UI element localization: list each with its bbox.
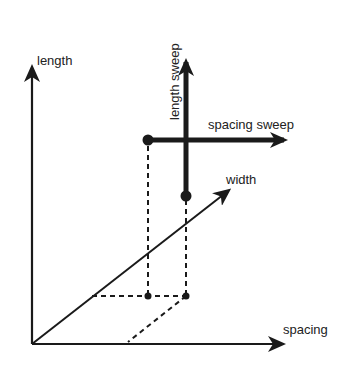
projection-lines — [92, 146, 186, 342]
spacing-sweep-start-point — [143, 135, 154, 146]
width-axis — [32, 191, 228, 344]
length-axis-label: length — [37, 53, 72, 68]
parameter-sweep-diagram: length spacing width spacing sweep lengt… — [0, 0, 352, 373]
length-sweep-start-point — [181, 191, 192, 202]
spacing-sweep-label: spacing sweep — [208, 117, 294, 132]
projection-point — [183, 293, 190, 300]
width-axis-label: width — [225, 172, 256, 187]
length-sweep-label: length sweep — [167, 43, 182, 120]
spacing-axis-label: spacing — [283, 322, 328, 337]
projection-point — [145, 293, 152, 300]
